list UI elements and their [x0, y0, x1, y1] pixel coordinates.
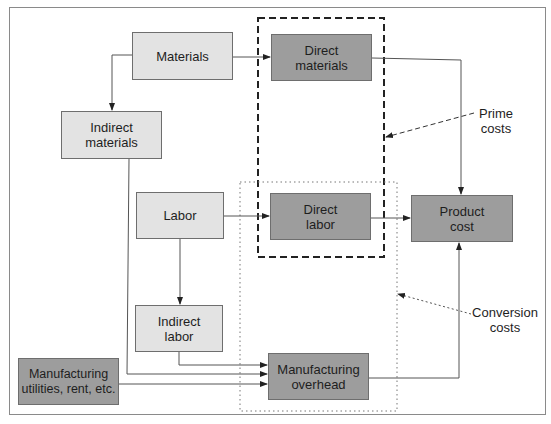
- node-manufacturing-utilities: Manufacturing utilities, rent, etc.: [18, 358, 119, 405]
- node-direct-materials-label: Direct materials: [288, 43, 355, 73]
- node-direct-materials: Direct materials: [271, 34, 372, 81]
- node-labor: Labor: [136, 192, 224, 239]
- node-indirect-labor-label: Indirect labor: [148, 314, 210, 344]
- node-manufacturing-overhead-label: Manufacturing overhead: [273, 362, 364, 392]
- node-labor-label: Labor: [163, 208, 196, 223]
- node-product-cost: Product cost: [411, 195, 513, 242]
- node-direct-labor-label: Direct labor: [299, 202, 342, 232]
- prime-costs-label: Prime costs: [474, 106, 518, 136]
- conversion-costs-label: Conversion costs: [472, 305, 538, 335]
- node-direct-labor: Direct labor: [270, 193, 371, 240]
- node-materials: Materials: [132, 32, 233, 80]
- node-product-cost-label: Product cost: [434, 204, 490, 234]
- node-materials-label: Materials: [156, 49, 209, 64]
- node-manufacturing-overhead: Manufacturing overhead: [268, 353, 369, 400]
- node-indirect-labor: Indirect labor: [135, 305, 223, 352]
- node-manufacturing-utilities-label: Manufacturing utilities, rent, etc.: [21, 367, 116, 397]
- node-indirect-materials-label: Indirect materials: [80, 120, 143, 150]
- node-indirect-materials: Indirect materials: [61, 111, 162, 159]
